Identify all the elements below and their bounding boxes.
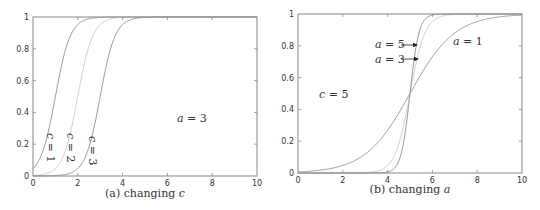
panel-b-xtick-label: 2	[340, 176, 345, 185]
panel-b-xtick-label: 0	[295, 176, 300, 185]
panel-a-caption: (a) changing c	[105, 187, 185, 200]
panel-a-label-c2: c = 2	[64, 133, 77, 162]
panel-a-label-a3: a = 3	[177, 112, 207, 125]
panel-b-chart: 024681000.20.40.60.81 a = 5 a = 3 a = 1 …	[281, 10, 527, 196]
panel-a-ytick-label: 0	[24, 172, 29, 181]
panel-a-ytick-label: 0.4	[16, 108, 29, 117]
panel-a-xtick-label: 0	[30, 179, 35, 188]
panel-b-ytick-label: 0.8	[281, 42, 294, 51]
panel-a-ytick-label: 1	[24, 13, 29, 22]
panel-b-label-a3: a = 3	[375, 53, 405, 66]
panel-a-ytick-label: 0.2	[16, 140, 29, 149]
panel-a-chart: 024681000.20.40.60.81 c = 1 c = 2 c = 3 …	[16, 13, 262, 200]
panel-b-ytick-label: 1	[289, 10, 294, 19]
panel-b-caption: (b) changing a	[370, 183, 451, 196]
panel-b-label-a1: a = 1	[453, 35, 483, 48]
panel-b-label-c5: c = 5	[319, 88, 348, 101]
panel-b-ytick-label: 0	[289, 169, 294, 178]
panel-b-ytick-label: 0.6	[281, 74, 294, 83]
panel-b-xtick-label: 8	[475, 176, 480, 185]
panel-a-ytick-label: 0.6	[16, 77, 29, 86]
panel-b-ytick-label: 0.2	[281, 137, 294, 146]
panel-a-ytick-label: 0.8	[16, 45, 29, 54]
panel-b-ytick-label: 0.4	[281, 105, 294, 114]
panel-b-xtick-label: 10	[517, 176, 527, 185]
panel-a-label-c3: c = 3	[86, 136, 99, 165]
figure: 024681000.20.40.60.81 c = 1 c = 2 c = 3 …	[0, 0, 540, 210]
panel-b-label-a5: a = 5	[375, 38, 405, 51]
panel-a-xtick-label: 8	[210, 179, 215, 188]
panel-a-label-c1: c = 1	[44, 133, 57, 162]
panel-a-xtick-label: 2	[75, 179, 80, 188]
panel-a-xtick-label: 10	[252, 179, 262, 188]
